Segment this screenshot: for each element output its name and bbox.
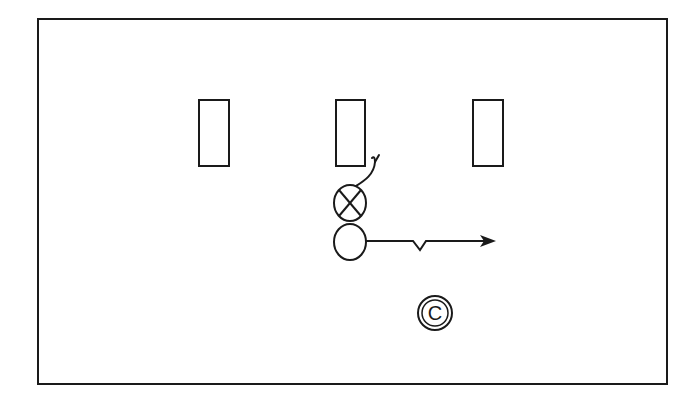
offense-player-icon — [334, 224, 366, 260]
coach-label: C — [428, 302, 442, 324]
coach-icon: C — [418, 296, 452, 330]
play-diagram: C — [0, 0, 700, 404]
defender-x-icon — [334, 185, 366, 221]
